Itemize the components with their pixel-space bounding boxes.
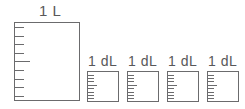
graduation-tick-minor bbox=[15, 87, 24, 88]
graduation-tick-minor bbox=[15, 96, 24, 97]
graduation-tick-minor bbox=[88, 92, 94, 93]
graduation-tick-minor bbox=[128, 98, 134, 99]
graduation-tick-minor bbox=[128, 95, 134, 96]
graduation-tick-minor bbox=[88, 98, 94, 99]
graduation-tick-minor bbox=[168, 98, 174, 99]
deciliter-container-label-1: 1 dL bbox=[88, 54, 117, 68]
deciliter-container-label-4: 1 dL bbox=[208, 54, 237, 68]
deciliter-container-label-3: 1 dL bbox=[168, 54, 197, 68]
graduation-tick-major bbox=[208, 85, 217, 86]
liter-container-graduations bbox=[15, 23, 79, 100]
graduation-tick-minor bbox=[15, 53, 24, 54]
graduation-tick-minor bbox=[88, 95, 94, 96]
deciliter-container-graduations-1 bbox=[88, 72, 118, 101]
graduation-tick-minor bbox=[15, 70, 24, 71]
graduation-tick-minor bbox=[128, 88, 134, 89]
graduation-tick-minor bbox=[168, 92, 174, 93]
graduation-tick-minor bbox=[208, 95, 214, 96]
graduation-tick-minor bbox=[128, 75, 134, 76]
graduation-tick-minor bbox=[208, 81, 214, 82]
graduation-tick-minor bbox=[168, 81, 174, 82]
graduation-tick-minor bbox=[168, 78, 174, 79]
graduation-tick-minor bbox=[128, 92, 134, 93]
graduation-tick-minor bbox=[208, 98, 214, 99]
graduation-tick-minor bbox=[208, 78, 214, 79]
graduation-tick-minor bbox=[88, 75, 94, 76]
graduation-tick-minor bbox=[168, 88, 174, 89]
deciliter-container-1 bbox=[87, 71, 119, 102]
graduation-tick-minor bbox=[15, 79, 24, 80]
deciliter-container-3 bbox=[167, 71, 199, 102]
graduation-tick-minor bbox=[88, 88, 94, 89]
deciliter-container-label-2: 1 dL bbox=[128, 54, 157, 68]
graduation-tick-minor bbox=[168, 95, 174, 96]
graduation-tick-minor bbox=[128, 81, 134, 82]
graduation-tick-minor bbox=[15, 36, 24, 37]
graduation-tick-minor bbox=[15, 44, 24, 45]
deciliter-container-graduations-2 bbox=[128, 72, 158, 101]
graduation-tick-minor bbox=[88, 81, 94, 82]
graduation-tick-minor bbox=[88, 78, 94, 79]
graduation-tick-major bbox=[128, 85, 137, 86]
graduation-tick-minor bbox=[208, 88, 214, 89]
liter-container-label: 1 L bbox=[39, 3, 61, 18]
liter-container bbox=[14, 22, 80, 101]
volume-units-diagram: 1 L 1 dL 1 dL 1 dL 1 dL bbox=[0, 0, 245, 109]
graduation-tick-major bbox=[88, 85, 97, 86]
graduation-tick-minor bbox=[208, 92, 214, 93]
graduation-tick-major bbox=[15, 61, 30, 62]
graduation-tick-minor bbox=[208, 75, 214, 76]
deciliter-container-4 bbox=[207, 71, 239, 102]
deciliter-container-2 bbox=[127, 71, 159, 102]
graduation-tick-minor bbox=[168, 75, 174, 76]
graduation-tick-minor bbox=[128, 78, 134, 79]
graduation-tick-major bbox=[168, 85, 177, 86]
graduation-tick-minor bbox=[15, 27, 24, 28]
deciliter-container-graduations-4 bbox=[208, 72, 238, 101]
deciliter-container-graduations-3 bbox=[168, 72, 198, 101]
